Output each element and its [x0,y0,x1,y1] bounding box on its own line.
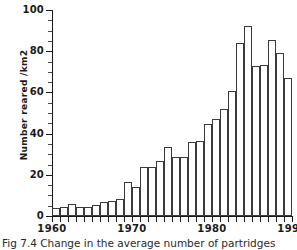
bar [220,109,228,216]
bar [132,187,140,216]
x-axis-tick [60,217,61,222]
bar [212,119,220,216]
x-axis-tick [92,217,93,222]
y-axis-tick-label: 80 [4,46,44,56]
bar [164,147,172,216]
y-axis-tick-label: 100 [4,5,44,15]
x-axis-tick [268,217,269,222]
x-axis-tick [140,217,141,222]
bar [156,161,164,216]
x-axis-tick [204,217,205,222]
x-axis-tick-label: 1990 [272,223,297,234]
y-axis-tick-label: 40 [4,129,44,139]
bar [76,207,84,216]
bar [116,199,124,217]
bar [52,208,60,216]
x-axis-tick [68,217,69,222]
x-axis-tick [284,217,285,222]
x-axis-tick [124,217,125,222]
x-axis-tick [196,217,197,222]
plot-area [52,10,292,216]
x-axis-tick [156,217,157,222]
x-axis-tick-label: 1970 [112,223,152,234]
y-axis-tick-label: 20 [4,170,44,180]
bar [124,182,132,216]
figure-container: Number reared /km2 020406080100 19601970… [0,0,297,250]
bar [84,207,92,216]
x-axis-tick [188,217,189,222]
x-axis-tick [244,217,245,222]
x-axis-tick [132,217,133,222]
x-axis-tick [236,217,237,222]
x-axis-tick [164,217,165,222]
y-axis-tick-label: 60 [4,87,44,97]
x-axis-tick [180,217,181,222]
x-axis-tick [292,217,293,222]
bar [60,207,68,216]
x-axis-tick [220,217,221,222]
bar [100,202,108,216]
x-axis-tick [108,217,109,222]
y-axis-tick-label: 0 [4,211,44,221]
x-axis-tick [84,217,85,222]
bar [228,91,236,216]
bar [92,205,100,216]
x-axis-tick [212,217,213,222]
bar [188,142,196,216]
bar [68,204,76,216]
bar [172,157,180,216]
bar [148,167,156,216]
bar [236,43,244,216]
bar [284,78,292,216]
bar [252,66,260,216]
x-axis-tick [172,217,173,222]
x-axis-tick-label: 1980 [192,223,232,234]
bar [204,124,212,216]
x-axis-tick [52,217,53,222]
x-axis-tick [260,217,261,222]
bar [268,40,276,216]
figure-caption: Fig 7.4 Change in the average number of … [2,237,295,250]
x-axis-tick [276,217,277,222]
x-axis-tick [100,217,101,222]
x-axis-tick [148,217,149,222]
bar [108,201,116,216]
bar [260,65,268,216]
bar [244,26,252,216]
bar [276,53,284,216]
x-axis-tick [252,217,253,222]
x-axis-tick [76,217,77,222]
bar [196,141,204,216]
bar [180,157,188,216]
bar [140,167,148,216]
x-axis-tick-label: 1960 [32,223,72,234]
x-axis-tick [116,217,117,222]
x-axis-tick [228,217,229,222]
